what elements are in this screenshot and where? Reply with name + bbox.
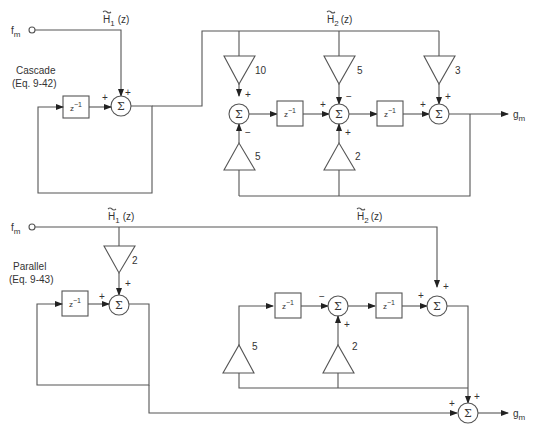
cascade-h1-label: H1(z): [103, 11, 129, 28]
svg-text:H1(z): H1(z): [108, 211, 134, 225]
cascade-title: Cascade: [16, 65, 56, 76]
sign-plus: +: [125, 87, 131, 98]
parallel-h1-label: H1(z): [108, 208, 134, 225]
sign-plus: +: [418, 290, 424, 301]
block-diagram: fm H1(z) Cascade (Eq. 9-42) Σ + + z−1 H2…: [0, 0, 539, 426]
sign-plus: +: [445, 91, 451, 102]
gain-label: 5: [255, 151, 261, 162]
cascade-gain-3: [424, 56, 455, 84]
parallel-h2-label: H2(z): [357, 208, 382, 225]
sign-plus: +: [420, 99, 426, 110]
sign-plus: +: [245, 89, 251, 100]
sign-plus: +: [102, 92, 108, 103]
sign-minus: −: [319, 291, 325, 302]
sign-plus: +: [345, 127, 351, 138]
parallel-section: fm H1(z) H2(z) Parallel (Eq. 9-43) 2 + Σ…: [9, 208, 526, 423]
sign-plus: +: [474, 391, 480, 402]
parallel-gain-2-top: [104, 246, 135, 273]
cascade-section: fm H1(z) Cascade (Eq. 9-42) Σ + + z−1 H2…: [11, 11, 526, 196]
parallel-branch-1-output: [149, 385, 457, 413]
parallel-feedback-1: [37, 304, 149, 385]
cascade-gain-5-bottom: [224, 143, 255, 170]
gain-label: 10: [255, 65, 267, 76]
gain-label: 3: [455, 65, 461, 76]
parallel-output-label: gm: [513, 408, 526, 422]
sign-minus: −: [245, 127, 251, 138]
sign-plus: +: [320, 99, 326, 110]
sum-symbol: Σ: [433, 300, 441, 313]
cascade-equation: (Eq. 9-42): [12, 78, 56, 89]
cascade-input-label: fm: [11, 25, 21, 39]
svg-text:H1(z): H1(z): [103, 14, 129, 28]
gain-label: 5: [252, 341, 258, 352]
parallel-feedback-bus: [239, 373, 468, 388]
gain-label: 2: [352, 341, 358, 352]
sum-symbol: Σ: [117, 100, 125, 113]
parallel-input-bus: [35, 227, 437, 287]
cascade-gain-10: [224, 56, 255, 84]
parallel-input-label: fm: [11, 222, 21, 236]
cascade-input-node: [29, 27, 35, 33]
sum-symbol: Σ: [115, 299, 123, 312]
sum-symbol: Σ: [435, 108, 443, 121]
parallel-gain-5-bottom: [223, 345, 254, 373]
gain-label: 5: [357, 65, 363, 76]
parallel-gain-2-bottom: [323, 345, 354, 373]
sign-plus: +: [443, 281, 449, 292]
parallel-input-node: [29, 224, 35, 230]
cascade-output-label: gm: [513, 109, 526, 123]
sign-plus: +: [99, 291, 105, 302]
cascade-h2-bus: [152, 31, 439, 106]
sign-plus: +: [449, 398, 455, 409]
sum-symbol: Σ: [334, 300, 342, 313]
sign-plus: +: [125, 278, 131, 289]
parallel-title: Parallel: [13, 261, 46, 272]
cascade-gain-2-bottom: [324, 143, 355, 170]
sum-symbol: Σ: [235, 108, 243, 121]
sign-plus: +: [344, 319, 350, 330]
cascade-gain-5-top: [324, 56, 355, 84]
svg-text:H2(z): H2(z): [357, 211, 382, 225]
svg-text:H2(z): H2(z): [327, 14, 352, 28]
sum-symbol: Σ: [335, 108, 343, 121]
sign-minus: −: [346, 91, 352, 102]
parallel-equation: (Eq. 9-43): [9, 274, 53, 285]
gain-label: 2: [355, 151, 361, 162]
cascade-feedback-1: [38, 106, 152, 193]
sum-symbol: Σ: [464, 407, 472, 420]
gain-label: 2: [132, 255, 138, 266]
cascade-h2-label: H2(z): [327, 11, 352, 28]
